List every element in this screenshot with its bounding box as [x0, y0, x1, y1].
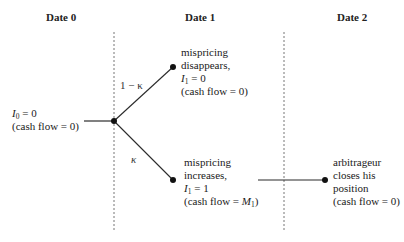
final-node-line3: position [333, 182, 368, 195]
root-eq: = 0 [19, 107, 36, 119]
upper-node-line2: disappears, [181, 59, 230, 72]
final-node [322, 177, 328, 183]
header-date-1: Date 1 [185, 11, 215, 24]
lower-eq: = 1 [191, 182, 208, 194]
root-cash-flow: (cash flow = 0) [12, 120, 79, 133]
lower-cash-suffix: ) [255, 195, 259, 207]
upper-node-line1: mispricing [181, 46, 228, 59]
lower-node [170, 177, 176, 183]
lower-node-line2: increases, [184, 169, 227, 182]
lower-cash-prefix: (cash flow = [184, 195, 242, 207]
final-node-cash-flow: (cash flow = 0) [333, 195, 400, 208]
upper-eq: = 0 [188, 72, 205, 84]
final-node-line2: closes his [333, 169, 375, 182]
upper-node [170, 64, 176, 70]
branch-up-probability: 1 − κ [120, 79, 143, 92]
final-node-line1: arbitrageur [333, 156, 381, 169]
branch-up [114, 67, 173, 121]
decision-tree-diagram: Date 0 Date 1 Date 2 I0 = 0 (cash flow =… [0, 0, 404, 242]
upper-node-cash-flow: (cash flow = 0) [181, 85, 248, 98]
branch-down [114, 121, 173, 180]
branch-down-probability: κ [131, 153, 136, 166]
lower-node-cash-flow: (cash flow = M1) [184, 195, 258, 211]
header-date-2: Date 2 [337, 11, 367, 24]
lower-cash-var: M [242, 195, 251, 207]
lower-node-line1: mispricing [184, 156, 231, 169]
header-date-0: Date 0 [46, 11, 76, 24]
root-node [111, 118, 117, 124]
